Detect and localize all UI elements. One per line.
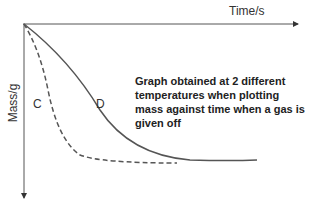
- series-d-label: D: [96, 97, 105, 111]
- y-axis-label: Mass/g: [6, 84, 20, 123]
- chart-annotation: Graph obtained at 2 different temperatur…: [135, 74, 305, 130]
- x-axis-label: Time/s: [229, 4, 265, 18]
- series-c-label: C: [33, 97, 42, 111]
